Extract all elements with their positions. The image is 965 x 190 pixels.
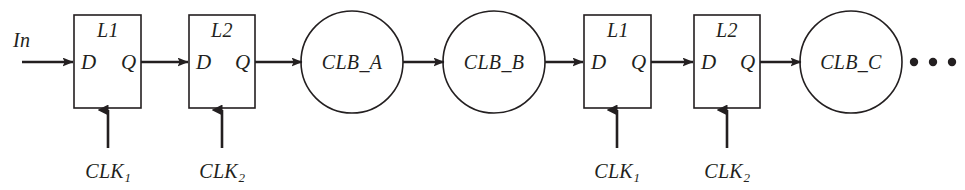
port-q-l1-b: Q bbox=[631, 50, 646, 75]
ellipsis-dot-3 bbox=[948, 58, 956, 66]
clock-label-clk1-a: CLK1 bbox=[85, 160, 131, 183]
clock-label-subscript: 2 bbox=[238, 170, 245, 185]
ellipsis-dot-1 bbox=[910, 58, 918, 66]
clock-label-clk2-a: CLK2 bbox=[199, 160, 245, 183]
clb-label-c: CLB_C bbox=[820, 51, 882, 74]
latch-name-l2-a: L2 bbox=[211, 19, 233, 42]
clb-label-b: CLB_B bbox=[464, 51, 524, 74]
clock-label-text: CLK bbox=[199, 160, 238, 182]
port-q-l1-a: Q bbox=[121, 50, 136, 75]
port-d-l2-b: D bbox=[701, 50, 716, 75]
clock-label-text: CLK bbox=[594, 160, 633, 182]
clb-label-a: CLB_A bbox=[322, 51, 382, 74]
clock-label-subscript: 1 bbox=[633, 170, 640, 185]
clock-label-clk2-b: CLK2 bbox=[704, 160, 750, 183]
latch-name-l1-b: L1 bbox=[607, 19, 629, 42]
input-label: In bbox=[13, 29, 30, 52]
port-d-l1-a: D bbox=[81, 50, 96, 75]
latch-pipeline-diagram: In L1 D Q L2 D Q L1 D Q L2 D Q CLB_A CLB… bbox=[0, 0, 965, 190]
port-q-l2-b: Q bbox=[740, 50, 755, 75]
clock-label-clk1-b: CLK1 bbox=[594, 160, 640, 183]
clock-label-text: CLK bbox=[704, 160, 743, 182]
latch-name-l1-a: L1 bbox=[97, 19, 119, 42]
port-d-l2-a: D bbox=[196, 50, 211, 75]
port-q-l2-a: Q bbox=[235, 50, 250, 75]
clock-label-text: CLK bbox=[85, 160, 124, 182]
ellipsis-dot-2 bbox=[929, 58, 937, 66]
clock-label-subscript: 1 bbox=[124, 170, 131, 185]
port-d-l1-b: D bbox=[591, 50, 606, 75]
clock-label-subscript: 2 bbox=[743, 170, 750, 185]
diagram-canvas bbox=[0, 0, 965, 190]
latch-name-l2-b: L2 bbox=[716, 19, 738, 42]
